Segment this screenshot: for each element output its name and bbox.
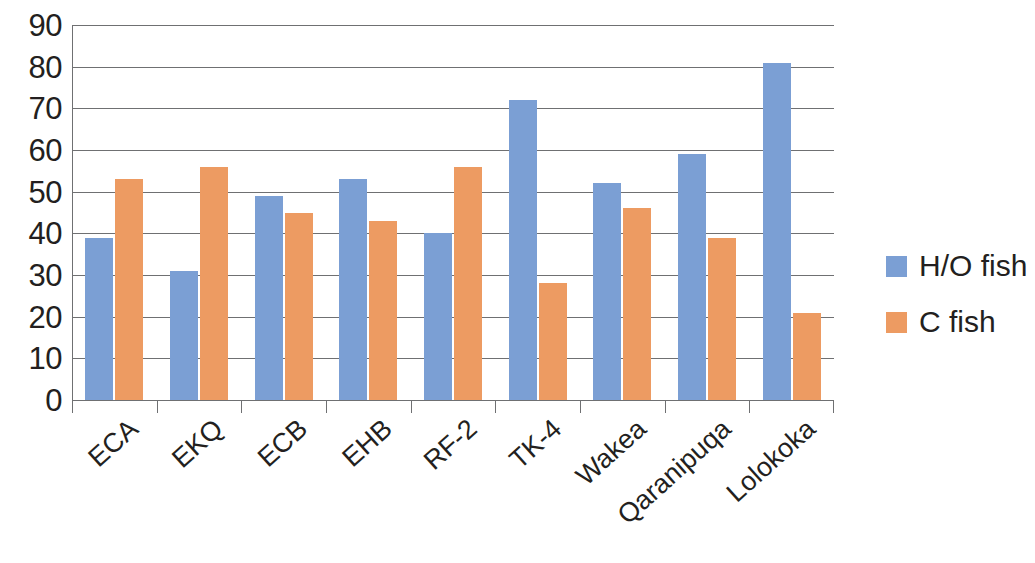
legend-swatch-icon [886,256,907,277]
legend-item[interactable]: C fish [886,294,1035,350]
x-tick [580,400,581,413]
bar [454,167,482,400]
x-tick [157,400,158,413]
plot-area [72,25,834,400]
y-tick-label: 0 [0,385,62,416]
legend-item[interactable]: H/O fish [886,238,1035,294]
y-tick-label: 60 [0,135,62,166]
bar [678,154,706,400]
y-tick-label: 10 [0,343,62,374]
bar [623,208,651,400]
y-tick-label: 20 [0,301,62,332]
y-tick-label: 80 [0,51,62,82]
bar [593,183,621,400]
x-tick [72,400,73,413]
bar [85,238,113,401]
bar [200,167,228,400]
bar [424,233,452,400]
y-tick-label: 50 [0,176,62,207]
legend-swatch-icon [886,312,907,333]
x-tick [241,400,242,413]
legend: H/O fishC fish [886,238,1035,350]
bar [708,238,736,401]
bar [170,271,198,400]
bar [763,63,791,401]
bar-chart: 9080706050403020100 ECAEKQECBEHBRF-2TK-4… [0,0,1035,563]
x-tick [495,400,496,413]
x-tick [833,400,834,413]
x-axis-labels: ECAEKQECBEHBRF-2TK-4WakeaQaranipuqaLolok… [0,414,900,563]
y-tick-label: 90 [0,10,62,41]
x-tick [326,400,327,413]
legend-label: C fish [919,307,996,337]
y-tick-label: 40 [0,218,62,249]
y-tick-label: 30 [0,260,62,291]
bar [509,100,537,400]
x-axis-ticks [72,400,834,413]
bar [793,313,821,401]
legend-label: H/O fish [919,251,1027,281]
x-tick [749,400,750,413]
x-tick [411,400,412,413]
x-tick [665,400,666,413]
bar [285,213,313,401]
bar [115,179,143,400]
bar [339,179,367,400]
bar [255,196,283,400]
y-tick-label: 70 [0,93,62,124]
bar [369,221,397,400]
bar [539,283,567,400]
y-axis: 9080706050403020100 [0,0,62,420]
bars-layer [72,25,834,400]
